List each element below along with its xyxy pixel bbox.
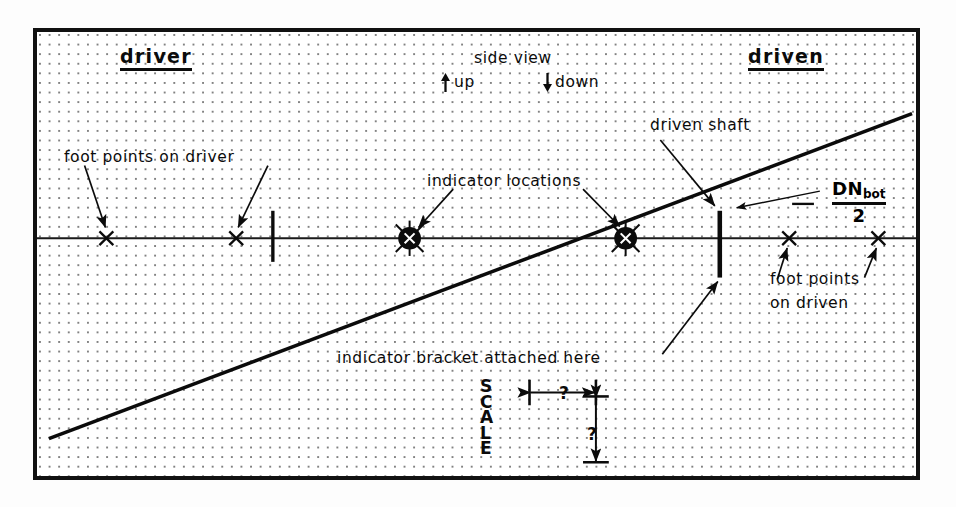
indicator-locations-label: indicator locations xyxy=(427,173,581,190)
scale-vertical-value: ? xyxy=(587,425,597,443)
foot-points-driven-label-line1: foot points xyxy=(770,271,860,288)
foot-points-driven-label-line2: on driven xyxy=(770,295,849,312)
drawing-frame: driver driven side view up down foot poi… xyxy=(33,28,920,480)
diagram-canvas: driver driven side view up down foot poi… xyxy=(0,0,956,507)
driven-title: driven xyxy=(748,46,824,71)
arrow-up-icon xyxy=(440,73,451,92)
side-view-label: side view xyxy=(474,50,552,67)
dn-bot-dimension: DNbot 2 xyxy=(832,178,886,226)
foot-points-driver-label: foot points on driver xyxy=(64,149,234,166)
scale-horizontal-value: ? xyxy=(559,384,569,402)
arrow-down-icon xyxy=(542,73,553,92)
down-label: down xyxy=(555,74,599,91)
scale-label: S C A L E xyxy=(480,379,493,457)
dn-numerator-text: DN xyxy=(832,178,863,199)
dn-numerator-subscript: bot xyxy=(863,187,886,201)
scale-letter-e: E xyxy=(480,441,493,457)
driver-title: driver xyxy=(120,46,192,71)
up-indicator: up xyxy=(440,73,475,92)
indicator-bracket-label: indicator bracket attached here xyxy=(337,350,601,367)
dn-denominator: 2 xyxy=(832,205,886,226)
scale-block: S C A L E xyxy=(480,379,493,457)
up-label: up xyxy=(454,74,475,91)
down-indicator: down xyxy=(542,73,599,92)
diagram-text-layer: driver driven side view up down foot poi… xyxy=(37,32,916,476)
driven-shaft-label: driven shaft xyxy=(650,117,750,134)
dn-numerator: DNbot xyxy=(832,178,886,201)
